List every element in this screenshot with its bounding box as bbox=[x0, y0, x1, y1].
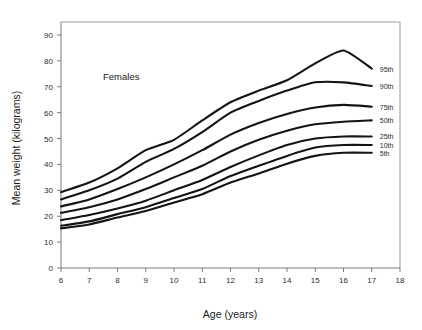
x-tick-label: 13 bbox=[254, 276, 263, 285]
y-axis-title: Mean weight (kilograms) bbox=[10, 91, 22, 205]
legend: 95th90th75th50th25th10th5th bbox=[380, 66, 394, 157]
y-tick-label: 0 bbox=[49, 264, 54, 273]
legend-label-5th: 5th bbox=[380, 150, 390, 157]
legend-label-90th: 90th bbox=[380, 83, 394, 90]
x-tick-label: 7 bbox=[87, 276, 92, 285]
legend-label-75th: 75th bbox=[380, 104, 394, 111]
y-axis-ticks: 0102030405060708090 bbox=[44, 31, 61, 273]
x-tick-label: 10 bbox=[170, 276, 179, 285]
y-tick-label: 60 bbox=[44, 109, 53, 118]
chart-figure: 0102030405060708090 67891011121314151617… bbox=[0, 0, 422, 330]
y-tick-label: 90 bbox=[44, 31, 53, 40]
x-tick-label: 11 bbox=[198, 276, 207, 285]
x-tick-label: 14 bbox=[283, 276, 292, 285]
percentile-line-25th bbox=[61, 136, 372, 220]
y-tick-label: 50 bbox=[44, 135, 53, 144]
weight-percentile-chart: 0102030405060708090 67891011121314151617… bbox=[0, 0, 422, 330]
y-tick-label: 20 bbox=[44, 212, 53, 221]
legend-label-25th: 25th bbox=[380, 133, 394, 140]
x-tick-label: 12 bbox=[226, 276, 235, 285]
x-tick-label: 16 bbox=[339, 276, 348, 285]
y-tick-label: 30 bbox=[44, 186, 53, 195]
x-tick-label: 8 bbox=[115, 276, 120, 285]
legend-label-10th: 10th bbox=[380, 142, 394, 149]
females-annotation: Females bbox=[103, 71, 140, 82]
x-tick-label: 17 bbox=[367, 276, 376, 285]
percentile-line-10th bbox=[61, 145, 372, 226]
percentile-line-50th bbox=[61, 120, 372, 212]
x-tick-label: 9 bbox=[144, 276, 149, 285]
x-axis-ticks: 6789101112131415161718 bbox=[59, 268, 405, 285]
percentile-line-75th bbox=[61, 105, 372, 207]
x-tick-label: 18 bbox=[396, 276, 405, 285]
x-tick-label: 6 bbox=[59, 276, 64, 285]
y-tick-label: 40 bbox=[44, 160, 53, 169]
x-axis-title: Age (years) bbox=[203, 308, 257, 320]
y-tick-label: 70 bbox=[44, 83, 53, 92]
x-tick-label: 15 bbox=[311, 276, 320, 285]
legend-label-50th: 50th bbox=[380, 117, 394, 124]
legend-label-95th: 95th bbox=[380, 66, 394, 73]
y-tick-label: 80 bbox=[44, 57, 53, 66]
y-tick-label: 10 bbox=[44, 238, 53, 247]
